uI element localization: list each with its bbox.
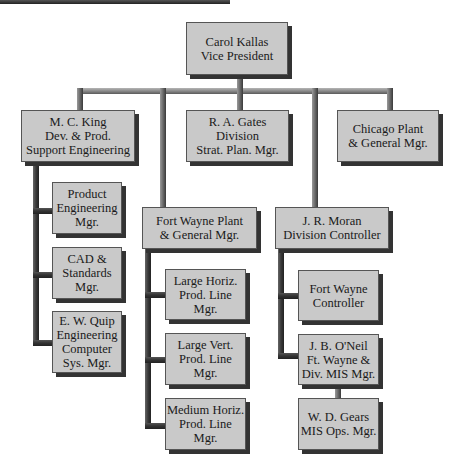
node-title: Mgr. — [75, 215, 99, 229]
node-fw-controller: Fort Wayne Controller — [298, 270, 379, 321]
connector-drop-moran — [312, 88, 318, 207]
node-title: Standards — [62, 266, 111, 280]
node-title: Strat. Plan. Mgr. — [196, 143, 278, 157]
node-title: Large Horiz. — [174, 274, 238, 288]
node-large-horiz: Large Horiz. Prod. Line Mgr. — [165, 269, 246, 320]
node-title: Fort Wayne — [309, 282, 367, 296]
node-name: E. W. Quip — [59, 314, 115, 328]
connector-king-stem — [33, 162, 39, 346]
connector-drop-king — [77, 88, 83, 110]
node-title: Product — [68, 187, 107, 201]
node-fort-wayne-plant: Fort Wayne Plant & General Mgr. — [142, 207, 257, 249]
connector-drop-gates — [237, 88, 243, 110]
node-title: Division Controller — [283, 228, 381, 242]
node-title: Prod. Line — [179, 288, 232, 302]
node-name: W. D. Gears — [308, 410, 369, 424]
node-name: R. A. Gates — [209, 115, 267, 129]
node-quip: E. W. Quip Engineering Computer Sys. Mgr… — [52, 311, 122, 373]
node-title: Ft. Wayne & — [307, 353, 371, 367]
connector-to-medium-horiz — [145, 423, 166, 429]
node-title: & General Mgr. — [348, 136, 428, 150]
node-title: Engineering — [56, 328, 117, 342]
node-medium-horiz: Medium Horiz. Prod. Line Mgr. — [165, 398, 246, 450]
node-title: Support Engineering — [26, 143, 130, 157]
header-rule — [0, 0, 230, 4]
node-gates: R. A. Gates Division Strat. Plan. Mgr. — [186, 110, 289, 162]
connector-to-large-vert — [145, 357, 166, 363]
node-title: Computer — [62, 342, 112, 356]
connector-to-oneil — [278, 353, 299, 359]
connector-moran-stem — [278, 249, 284, 359]
node-name: J. R. Moran — [302, 214, 361, 228]
node-title: Controller — [313, 296, 364, 310]
node-title: Div. MIS Mgr. — [302, 367, 376, 381]
node-title: Medium Horiz. — [167, 403, 244, 417]
connector-to-product-eng — [33, 208, 53, 214]
node-title: Mgr. — [194, 366, 218, 380]
connector-to-fw-controller — [278, 293, 299, 299]
node-gears: W. D. Gears MIS Ops. Mgr. — [298, 398, 379, 450]
node-title: Dev. & Prod. — [45, 129, 111, 143]
node-title: Mgr. — [194, 431, 218, 445]
node-name: Carol Kallas — [206, 35, 269, 49]
node-cad: CAD & Standards Mgr. — [52, 247, 122, 299]
node-oneil: J. B. O'Neil Ft. Wayne & Div. MIS Mgr. — [298, 334, 379, 385]
node-title: Large Vert. — [178, 338, 234, 352]
node-title: CAD & — [67, 252, 106, 266]
node-title: Vice President — [201, 49, 274, 63]
connector-to-quip — [33, 340, 53, 346]
node-vp: Carol Kallas Vice President — [186, 22, 288, 75]
node-large-vert: Large Vert. Prod. Line Mgr. — [165, 333, 246, 385]
node-title: Engineering — [56, 201, 117, 215]
node-chicago: Chicago Plant & General Mgr. — [337, 110, 439, 162]
node-title: MIS Ops. Mgr. — [301, 424, 377, 438]
node-moran: J. R. Moran Division Controller — [275, 207, 389, 249]
node-title: Fort Wayne Plant — [156, 214, 243, 228]
node-title: Division — [216, 129, 259, 143]
node-product-eng: Product Engineering Mgr. — [52, 182, 122, 234]
connector-drop-fort-wayne — [160, 88, 166, 207]
connector-main-horizontal — [77, 88, 393, 94]
node-name: M. C. King — [50, 115, 107, 129]
node-king: M. C. King Dev. & Prod. Support Engineer… — [21, 110, 135, 162]
node-title: Prod. Line — [179, 352, 232, 366]
node-title: & General Mgr. — [160, 228, 240, 242]
node-title: Mgr. — [194, 302, 218, 316]
node-name: J. B. O'Neil — [309, 339, 368, 353]
connector-oneil-gears — [335, 385, 341, 398]
node-title: Prod. Line — [179, 417, 232, 431]
connector-drop-chicago — [387, 88, 393, 110]
node-title: Sys. Mgr. — [63, 356, 111, 370]
node-title: Chicago Plant — [353, 122, 423, 136]
connector-to-cad — [33, 272, 53, 278]
connector-fw-stem — [145, 249, 151, 429]
node-title: Mgr. — [75, 280, 99, 294]
connector-to-large-horiz — [145, 292, 166, 298]
